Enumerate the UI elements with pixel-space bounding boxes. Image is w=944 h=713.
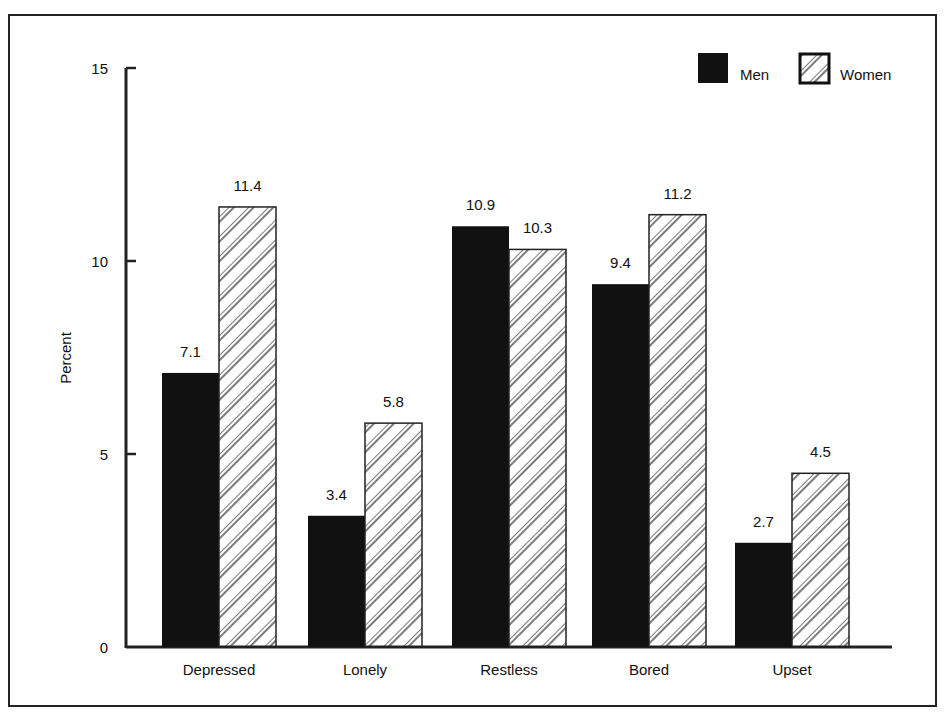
bar-group-restless: 10.910.3 (452, 196, 566, 647)
bar-women-depressed (219, 207, 276, 647)
y-tick-labels: 051015 (91, 60, 108, 656)
bar-chart: 051015 Percent 7.111.43.45.810.910.39.41… (0, 0, 944, 713)
legend-label-men: Men (740, 66, 769, 83)
legend-swatch-women (800, 54, 829, 83)
category-label-upset: Upset (772, 661, 812, 678)
bar-group-lonely: 3.45.8 (308, 393, 422, 647)
y-tick-label: 0 (100, 639, 108, 656)
y-axis-title: Percent (57, 331, 74, 384)
bars: 7.111.43.45.810.910.39.411.22.74.5 (162, 177, 849, 647)
bar-group-depressed: 7.111.4 (162, 177, 276, 647)
bar-men-depressed (162, 373, 219, 647)
value-label: 2.7 (753, 513, 774, 530)
value-label: 11.2 (663, 185, 691, 202)
value-label: 9.4 (610, 254, 631, 271)
value-label: 5.8 (383, 393, 404, 410)
value-label: 4.5 (810, 443, 831, 460)
legend: Men Women (698, 53, 891, 83)
bar-men-restless (452, 226, 509, 647)
y-axis (126, 68, 136, 648)
bar-men-lonely (308, 516, 365, 647)
category-labels: DepressedLonelyRestlessBoredUpset (183, 661, 813, 678)
y-tick-label: 10 (91, 253, 108, 270)
legend-label-women: Women (840, 66, 891, 83)
value-label: 10.3 (523, 219, 552, 236)
category-label-depressed: Depressed (183, 661, 256, 678)
legend-item-women: Women (800, 54, 891, 83)
bar-women-bored (649, 215, 706, 647)
bar-women-upset (792, 473, 849, 647)
bar-women-restless (509, 249, 566, 647)
value-label: 7.1 (180, 343, 201, 360)
category-label-restless: Restless (480, 661, 538, 678)
bar-group-upset: 2.74.5 (735, 443, 849, 647)
y-tick-label: 5 (100, 446, 108, 463)
category-label-bored: Bored (629, 661, 669, 678)
y-tick-label: 15 (91, 60, 108, 77)
category-label-lonely: Lonely (343, 661, 388, 678)
bar-men-upset (735, 543, 792, 647)
value-label: 11.4 (233, 177, 261, 194)
bar-group-bored: 9.411.2 (592, 185, 706, 647)
bar-men-bored (592, 284, 649, 647)
legend-item-men: Men (698, 53, 769, 83)
value-label: 3.4 (326, 486, 347, 503)
bar-women-lonely (365, 423, 422, 647)
legend-swatch-men (698, 53, 728, 83)
value-label: 10.9 (466, 196, 495, 213)
